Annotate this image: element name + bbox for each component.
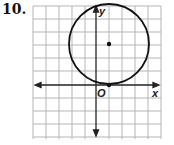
y-axis-label: y [98, 5, 106, 17]
grid [33, 6, 161, 139]
tangent-point [107, 83, 111, 87]
x-axis-label: x [151, 87, 159, 99]
coordinate-plane: y x O [0, 0, 174, 145]
center-point [107, 42, 111, 46]
origin-label: O [97, 87, 106, 99]
